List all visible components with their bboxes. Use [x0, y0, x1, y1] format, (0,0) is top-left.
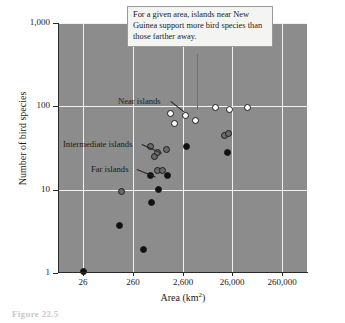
series-annotation: Intermediate islands	[63, 139, 132, 149]
callout-box: For a given area, islands near New Guine…	[127, 6, 273, 47]
y-axis-line	[58, 23, 59, 273]
x-axis-title: Area (km2)	[58, 291, 308, 303]
y-axis-tick	[53, 273, 58, 274]
x-axis-title-tail: )	[202, 292, 205, 303]
y-axis-title: Number of bird species	[17, 54, 28, 224]
figure-caption: Figure 22.5	[12, 309, 59, 319]
x-gridline	[232, 23, 233, 273]
y-axis-tick-label: 1,000	[0, 17, 50, 27]
data-point	[164, 172, 171, 179]
callout-pointer	[197, 54, 198, 110]
series-annotation: Far islands	[91, 164, 128, 174]
x-gridline	[282, 23, 283, 273]
x-axis-title-text: Area (km	[161, 292, 199, 303]
y-gridline	[58, 106, 307, 107]
series-annotation: Near islands	[118, 96, 161, 106]
data-point	[116, 222, 123, 229]
data-point	[226, 106, 233, 113]
data-point	[167, 110, 174, 117]
y-gridline	[58, 190, 307, 191]
x-axis-line	[58, 272, 308, 273]
data-point	[244, 104, 251, 111]
data-point	[140, 246, 147, 253]
x-gridline	[133, 23, 134, 273]
x-axis-tick-label: 260,000	[252, 277, 312, 287]
data-point	[183, 143, 190, 150]
data-point	[182, 112, 189, 119]
figure-container: 262602,60026,000260,0001101001,000 Near …	[0, 0, 345, 323]
data-point	[171, 120, 178, 127]
y-axis-tick-label: 1	[0, 267, 50, 277]
data-point	[148, 199, 155, 206]
